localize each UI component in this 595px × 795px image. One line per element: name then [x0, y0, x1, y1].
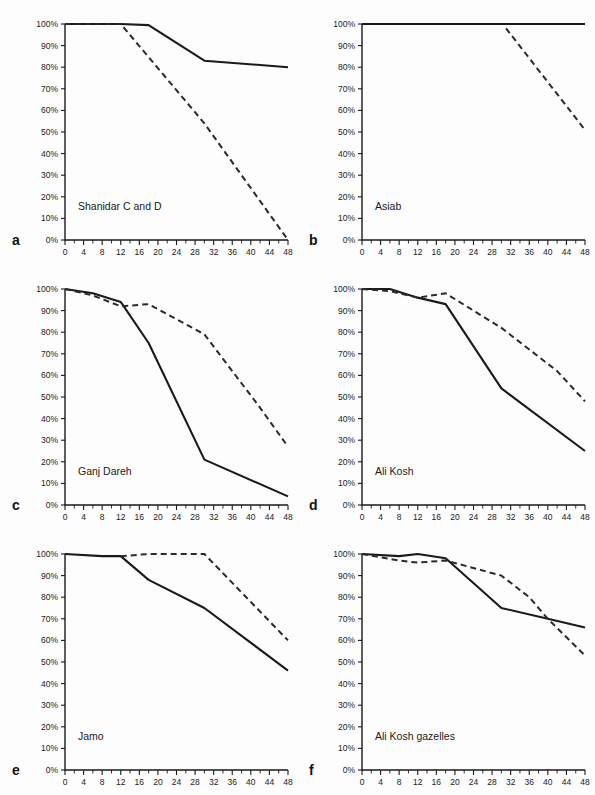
y-tick-label: 80%: [41, 62, 58, 72]
y-tick-label: 0%: [46, 765, 59, 775]
x-tick-label: 36: [228, 777, 238, 787]
series-line-dashed: [362, 554, 585, 656]
x-tick-label: 20: [450, 777, 460, 787]
x-tick-label: 40: [246, 247, 256, 257]
y-tick-label: 40%: [338, 679, 355, 689]
x-tick-label: 0: [63, 247, 68, 257]
y-tick-label: 30%: [41, 435, 58, 445]
x-tick-label: 28: [190, 512, 200, 522]
x-tick-label: 44: [562, 512, 572, 522]
panel-d: 0%10%20%30%40%50%60%70%80%90%100%0481216…: [297, 265, 594, 530]
x-tick-label: 28: [190, 777, 200, 787]
y-tick-label: 60%: [338, 370, 355, 380]
y-tick-label: 70%: [338, 614, 355, 624]
y-tick-label: 100%: [333, 549, 355, 559]
x-tick-label: 20: [153, 247, 163, 257]
x-tick-label: 28: [487, 247, 497, 257]
panel-c: 0%10%20%30%40%50%60%70%80%90%100%0481216…: [0, 265, 297, 530]
x-tick-label: 32: [506, 247, 516, 257]
y-tick-label: 50%: [338, 127, 355, 137]
y-tick-label: 40%: [41, 149, 58, 159]
y-axis-ticks: 0%10%20%30%40%50%60%70%80%90%100%: [333, 284, 362, 510]
y-tick-label: 20%: [41, 192, 58, 202]
y-tick-label: 80%: [338, 592, 355, 602]
series-line-solid: [362, 289, 585, 451]
x-tick-label: 44: [265, 777, 275, 787]
x-tick-label: 16: [135, 777, 145, 787]
y-tick-label: 40%: [338, 414, 355, 424]
panel-letter: f: [309, 762, 314, 778]
x-tick-label: 32: [506, 512, 516, 522]
y-axis-ticks: 0%10%20%30%40%50%60%70%80%90%100%: [36, 284, 65, 510]
x-tick-label: 12: [413, 777, 423, 787]
y-tick-label: 50%: [41, 392, 58, 402]
x-tick-label: 44: [562, 777, 572, 787]
x-tick-label: 0: [360, 777, 365, 787]
x-tick-label: 12: [116, 512, 126, 522]
y-tick-label: 70%: [41, 614, 58, 624]
x-tick-label: 36: [525, 777, 535, 787]
x-tick-label: 12: [413, 512, 423, 522]
x-tick-label: 8: [100, 777, 105, 787]
panel-letter: e: [12, 762, 20, 778]
x-tick-label: 32: [209, 512, 219, 522]
y-tick-label: 0%: [343, 500, 356, 510]
x-tick-label: 40: [246, 512, 256, 522]
series-line-solid: [65, 554, 288, 671]
y-tick-label: 0%: [343, 235, 356, 245]
y-tick-label: 10%: [338, 743, 355, 753]
panel-title: Ali Kosh gazelles: [375, 730, 455, 742]
x-axis-ticks: 04812162024283236404448: [63, 505, 293, 522]
x-tick-label: 8: [100, 247, 105, 257]
y-tick-label: 90%: [41, 306, 58, 316]
y-tick-label: 20%: [338, 722, 355, 732]
x-tick-label: 16: [432, 247, 442, 257]
series-line-dashed: [65, 289, 288, 447]
y-tick-label: 50%: [41, 657, 58, 667]
x-axis-ticks: 04812162024283236404448: [360, 770, 590, 787]
x-tick-label: 24: [172, 247, 182, 257]
y-axis-ticks: 0%10%20%30%40%50%60%70%80%90%100%: [333, 549, 362, 775]
series-line-solid: [65, 24, 288, 67]
x-tick-label: 44: [562, 247, 572, 257]
x-tick-label: 12: [116, 777, 126, 787]
x-axis-ticks: 04812162024283236404448: [360, 505, 590, 522]
x-tick-label: 4: [81, 777, 86, 787]
x-axis-ticks: 04812162024283236404448: [360, 240, 590, 257]
x-tick-label: 20: [450, 512, 460, 522]
x-tick-label: 4: [81, 247, 86, 257]
y-tick-label: 80%: [338, 62, 355, 72]
series-line-dashed: [121, 554, 288, 640]
y-tick-label: 20%: [41, 722, 58, 732]
x-tick-label: 24: [469, 512, 479, 522]
y-tick-label: 30%: [338, 700, 355, 710]
y-tick-label: 100%: [333, 19, 355, 29]
x-tick-label: 0: [360, 247, 365, 257]
x-tick-label: 4: [378, 512, 383, 522]
y-tick-label: 100%: [36, 19, 58, 29]
x-tick-label: 16: [135, 247, 145, 257]
panel-letter: b: [309, 232, 318, 248]
figure-survivorship-curves: 0%10%20%30%40%50%60%70%80%90%100%0481216…: [0, 0, 595, 795]
panel-letter: c: [12, 497, 20, 513]
y-tick-label: 30%: [338, 435, 355, 445]
x-tick-label: 40: [246, 777, 256, 787]
y-tick-label: 100%: [333, 284, 355, 294]
y-axis-ticks: 0%10%20%30%40%50%60%70%80%90%100%: [36, 549, 65, 775]
x-axis-ticks: 04812162024283236404448: [63, 770, 293, 787]
x-tick-label: 36: [228, 512, 238, 522]
y-tick-label: 70%: [338, 349, 355, 359]
x-tick-label: 48: [283, 512, 293, 522]
panel-letter: a: [12, 232, 20, 248]
x-tick-label: 8: [397, 247, 402, 257]
x-tick-label: 12: [116, 247, 126, 257]
y-tick-label: 60%: [41, 370, 58, 380]
y-tick-label: 60%: [41, 635, 58, 645]
x-tick-label: 16: [432, 512, 442, 522]
panel-title: Ali Kosh: [375, 465, 414, 477]
x-tick-label: 28: [190, 247, 200, 257]
x-tick-label: 24: [469, 247, 479, 257]
x-tick-label: 36: [525, 512, 535, 522]
y-tick-label: 90%: [338, 41, 355, 51]
x-tick-label: 0: [63, 777, 68, 787]
